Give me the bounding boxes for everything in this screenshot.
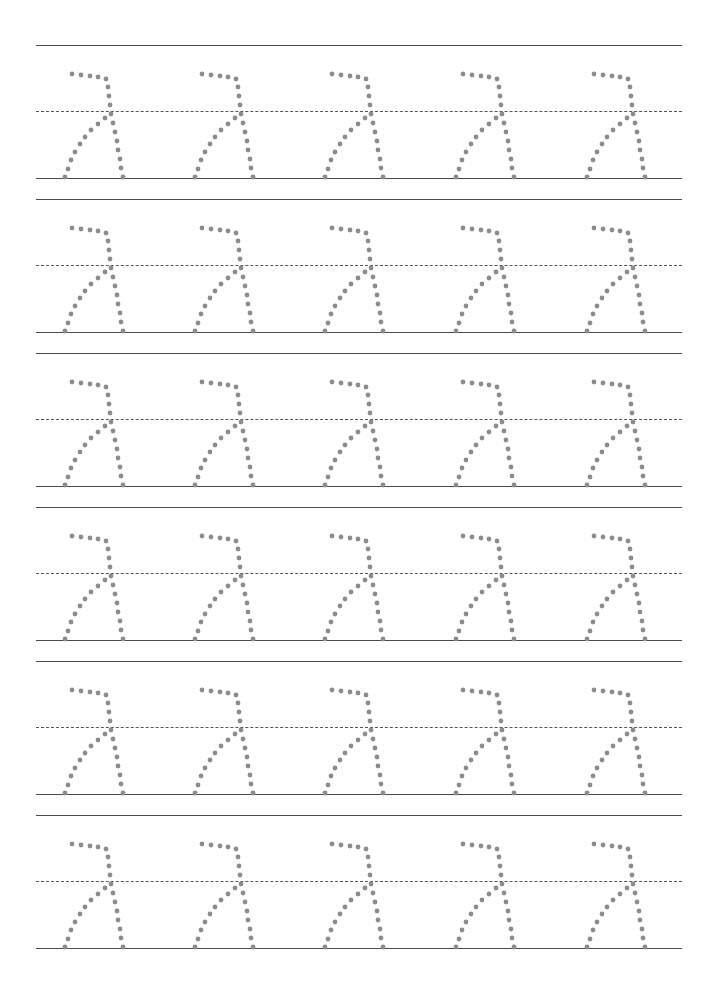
top-guide-line: [36, 353, 682, 354]
traceable-character-glyph: [318, 220, 398, 345]
traceable-character-glyph: [580, 836, 660, 961]
traceable-character-glyph: [449, 528, 529, 653]
top-guide-line: [36, 45, 682, 46]
traceable-character-glyph: [318, 528, 398, 653]
traceable-character-glyph: [188, 374, 268, 499]
traceable-character-glyph: [58, 66, 138, 191]
traceable-character-glyph: [449, 66, 529, 191]
traceable-character-glyph: [58, 220, 138, 345]
traceable-character-glyph: [58, 528, 138, 653]
traceable-character-glyph: [58, 836, 138, 961]
traceable-character-glyph: [318, 374, 398, 499]
traceable-character-glyph: [580, 682, 660, 807]
traceable-character-glyph: [58, 374, 138, 499]
traceable-character-glyph: [188, 66, 268, 191]
traceable-character-glyph: [449, 374, 529, 499]
top-guide-line: [36, 199, 682, 200]
top-guide-line: [36, 815, 682, 816]
traceable-character-glyph: [449, 682, 529, 807]
top-guide-line: [36, 661, 682, 662]
traceable-character-glyph: [449, 836, 529, 961]
traceable-character-glyph: [58, 682, 138, 807]
top-guide-line: [36, 507, 682, 508]
tracing-worksheet: [0, 0, 714, 991]
traceable-character-glyph: [449, 220, 529, 345]
traceable-character-glyph: [580, 220, 660, 345]
traceable-character-glyph: [318, 682, 398, 807]
traceable-character-glyph: [580, 528, 660, 653]
traceable-character-glyph: [188, 528, 268, 653]
traceable-character-glyph: [580, 66, 660, 191]
traceable-character-glyph: [580, 374, 660, 499]
traceable-character-glyph: [188, 836, 268, 961]
traceable-character-glyph: [318, 66, 398, 191]
traceable-character-glyph: [318, 836, 398, 961]
traceable-character-glyph: [188, 682, 268, 807]
traceable-character-glyph: [188, 220, 268, 345]
